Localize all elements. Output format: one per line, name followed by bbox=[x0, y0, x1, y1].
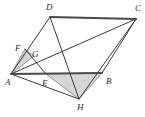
segment-side-ab bbox=[11, 73, 102, 74]
vertex-label-g: G bbox=[32, 50, 39, 59]
geometry-canvas bbox=[0, 0, 145, 117]
vertex-label-h: H bbox=[77, 103, 84, 112]
vertex-label-d: D bbox=[46, 3, 53, 12]
segment-side-dc bbox=[50, 17, 136, 19]
geometry-figure: A B C D E F G H bbox=[0, 0, 145, 117]
vertex-label-f: F bbox=[15, 44, 21, 53]
vertex-label-c: C bbox=[135, 4, 141, 13]
vertex-label-e: E bbox=[42, 79, 48, 88]
vertex-label-a: A bbox=[5, 78, 11, 87]
vertex-label-b: B bbox=[106, 77, 112, 86]
segment-side-bc bbox=[102, 19, 136, 73]
